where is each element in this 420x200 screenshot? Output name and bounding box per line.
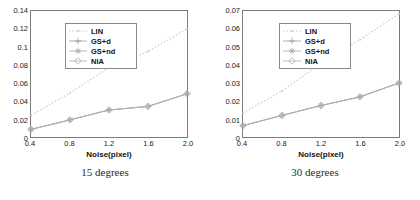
legend-marker-gsd-icon bbox=[68, 36, 88, 46]
legend-label-gsd: GS+d bbox=[91, 37, 111, 46]
y-tick-label: 0.05 bbox=[225, 42, 240, 51]
x-tick-label: 0.4 bbox=[25, 139, 35, 148]
legend-label-nia: NIA bbox=[305, 57, 318, 66]
legend-item-gsnd: GS+nd bbox=[68, 46, 134, 56]
x-axis-title-left: Noise(pixel) bbox=[30, 150, 188, 159]
x-tick-label: 2.0 bbox=[183, 139, 193, 148]
y-tick-label: 0.02 bbox=[225, 97, 240, 106]
legend-marker-nia-icon bbox=[68, 56, 88, 66]
legend-marker-gsnd-icon bbox=[68, 46, 88, 56]
legend-label-lin: LIN bbox=[91, 27, 103, 36]
legend-marker-lin-icon bbox=[68, 26, 88, 36]
x-tick-label: 2.0 bbox=[395, 139, 405, 148]
y-tick-label: 0.03 bbox=[225, 79, 240, 88]
legend-label-nia: NIA bbox=[91, 57, 104, 66]
y-tick-label: 0.04 bbox=[225, 60, 240, 69]
x-tick-label: 1.6 bbox=[143, 139, 153, 148]
legend-item-nia: NIA bbox=[282, 56, 348, 66]
legend-label-gsd: GS+d bbox=[305, 37, 325, 46]
x-tick-label: 0.8 bbox=[276, 139, 286, 148]
legend-marker-lin-icon bbox=[282, 26, 302, 36]
plot-area-right: LIN GS+d GS+nd NIA bbox=[242, 10, 400, 138]
legend-item-gsd: GS+d bbox=[68, 36, 134, 46]
y-axis-ticks-right: 00.010.020.030.040.050.060.07 bbox=[210, 0, 240, 128]
plot-area-left: LIN GS+d GS+nd NIA bbox=[30, 10, 188, 138]
legend-label-gsnd: GS+nd bbox=[305, 47, 329, 56]
y-tick-label: 0.1 bbox=[18, 42, 28, 51]
y-tick-label: 0.12 bbox=[13, 24, 28, 33]
x-tick-label: 1.2 bbox=[104, 139, 114, 148]
y-tick-label: 0.14 bbox=[13, 6, 28, 15]
panel-caption-left: 15 degrees bbox=[0, 166, 210, 178]
x-tick-label: 0.4 bbox=[237, 139, 247, 148]
y-tick-label: 0.06 bbox=[225, 24, 240, 33]
legend-label-lin: LIN bbox=[305, 27, 317, 36]
y-tick-label: 0.07 bbox=[225, 6, 240, 15]
y-axis-ticks-left: 00.020.040.060.080.10.120.14 bbox=[0, 0, 28, 128]
legend-item-gsd: GS+d bbox=[282, 36, 348, 46]
legend-right: LIN GS+d GS+nd NIA bbox=[279, 23, 351, 69]
legend-item-nia: NIA bbox=[68, 56, 134, 66]
legend-item-gsnd: GS+nd bbox=[282, 46, 348, 56]
legend-item-lin: LIN bbox=[68, 26, 134, 36]
y-tick-label: 0.02 bbox=[13, 115, 28, 124]
legend-marker-gsd-icon bbox=[282, 36, 302, 46]
y-tick-label: 0.08 bbox=[13, 60, 28, 69]
x-tick-label: 0.8 bbox=[64, 139, 74, 148]
y-tick-label: 0.01 bbox=[225, 115, 240, 124]
legend-left: LIN GS+d GS+nd NIA bbox=[65, 23, 137, 69]
legend-marker-nia-icon bbox=[282, 56, 302, 66]
panel-caption-right: 30 degrees bbox=[210, 166, 420, 178]
y-tick-label: 0.04 bbox=[13, 97, 28, 106]
legend-marker-gsnd-icon bbox=[282, 46, 302, 56]
y-tick-label: 0.06 bbox=[13, 79, 28, 88]
x-axis-title-right: Noise(pixel) bbox=[242, 150, 400, 159]
chart-panel-15-degrees: 00.020.040.060.080.10.120.14 LIN GS+d GS… bbox=[0, 0, 210, 200]
x-tick-label: 1.6 bbox=[355, 139, 365, 148]
chart-panel-30-degrees: 00.010.020.030.040.050.060.07 LIN GS+d G… bbox=[210, 0, 420, 200]
figure-two-panel-line-charts: 00.020.040.060.080.10.120.14 LIN GS+d GS… bbox=[0, 0, 420, 200]
x-tick-label: 1.2 bbox=[316, 139, 326, 148]
legend-label-gsnd: GS+nd bbox=[91, 47, 115, 56]
legend-item-lin: LIN bbox=[282, 26, 348, 36]
